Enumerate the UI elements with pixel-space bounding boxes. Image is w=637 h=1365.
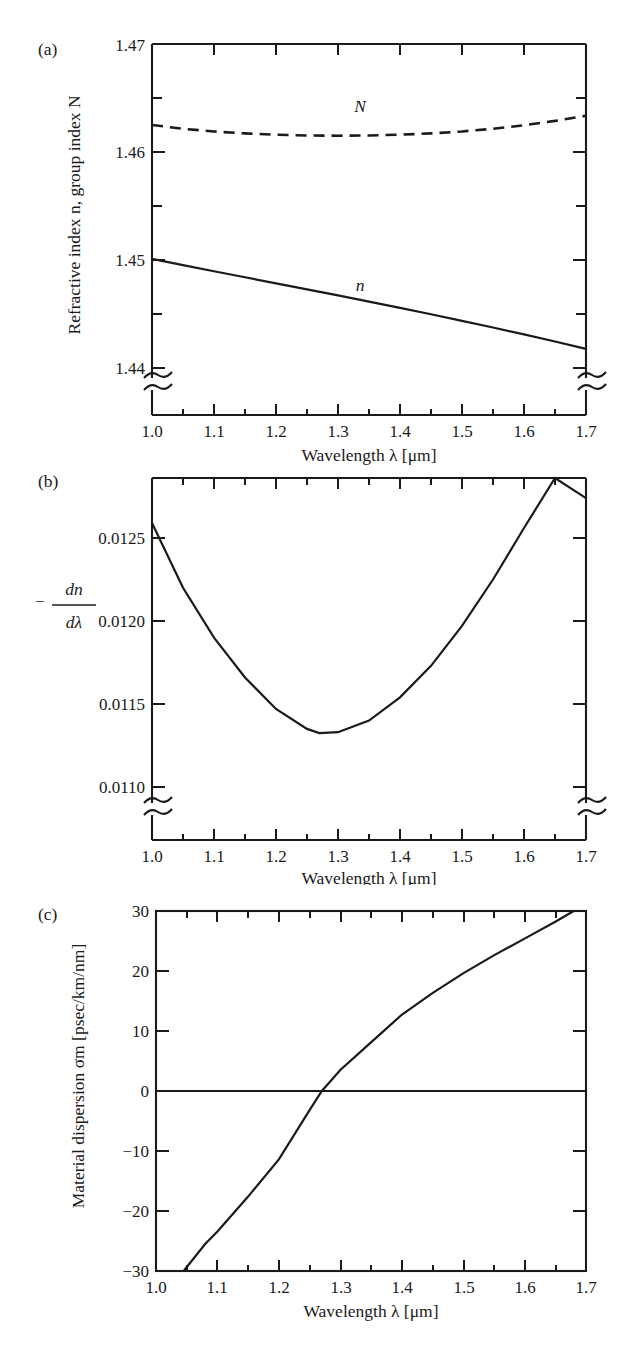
panel-b-y-tick-labels: 0.0110 0.0115 0.0120 0.0125 <box>98 529 145 797</box>
panel-b-xtick-7: 1.7 <box>575 847 597 866</box>
panel-a-axis-break-left <box>144 372 172 415</box>
panel-a-xtick-3: 1.3 <box>327 422 348 441</box>
panel-a-xtick-4: 1.4 <box>389 422 411 441</box>
panel-a-xtick-5: 1.5 <box>451 422 472 441</box>
panel-c-xtick-1: 1.1 <box>206 1278 227 1297</box>
panel-b-ytick-3: 0.0125 <box>98 529 145 548</box>
panel-a-y-tick-labels: 1.44 1.45 1.46 1.47 <box>115 36 145 378</box>
panel-b-xtick-1: 1.1 <box>203 847 224 866</box>
panel-c-ytick-3: 0 <box>141 1082 150 1101</box>
panel-a-letter: (a) <box>38 39 58 59</box>
panel-c: (c) Material dispersion σm [psec/km/nm] <box>0 880 637 1365</box>
panel-a-xtick-7: 1.7 <box>575 422 597 441</box>
panel-a-ytick-1: 1.45 <box>115 251 145 270</box>
panel-c-x-tick-labels: 1.0 1.1 1.2 1.3 1.4 1.5 1.6 1.7 <box>145 1278 597 1297</box>
panel-a-label-N: N <box>353 96 367 116</box>
panel-a-xtick-1: 1.1 <box>203 422 224 441</box>
panel-b-y-ticks <box>152 538 586 787</box>
panel-b-ylabel-sign: − <box>35 591 45 611</box>
panel-a-x-ticks <box>152 44 586 415</box>
panel-b: (b) − dn dλ <box>0 455 637 885</box>
panel-c-xtick-5: 1.5 <box>453 1278 474 1297</box>
panel-b-ylabel-numerator: dn <box>65 579 83 599</box>
panel-b-ylabel-group: − dn dλ <box>35 579 96 632</box>
panel-a-xtick-6: 1.6 <box>513 422 534 441</box>
panel-b-xtick-6: 1.6 <box>513 847 534 866</box>
panel-a-y-ticks <box>152 44 586 368</box>
panel-c-y-tick-labels: −30 −20 −10 0 10 20 30 <box>122 902 149 1281</box>
panel-b-xtick-4: 1.4 <box>389 847 411 866</box>
panel-a-x-tick-labels: 1.0 1.1 1.2 1.3 1.4 1.5 1.6 1.7 <box>141 422 597 441</box>
panel-c-letter: (c) <box>38 904 58 924</box>
panel-c-ytick-2: −10 <box>122 1142 149 1161</box>
panel-b-xtick-5: 1.5 <box>451 847 472 866</box>
panel-b-xtick-0: 1.0 <box>141 847 162 866</box>
panel-b-curve <box>152 478 586 733</box>
panel-a-curve-n <box>152 259 586 349</box>
panel-c-ylabel: Material dispersion σm [psec/km/nm] <box>68 944 88 1209</box>
panel-b-ytick-2: 0.0120 <box>98 612 145 631</box>
panel-c-xlabel: Wavelength λ [μm] <box>303 1301 438 1321</box>
panel-a-ytick-2: 1.46 <box>115 143 145 162</box>
panel-c-ytick-5: 20 <box>132 962 149 981</box>
panel-b-axis-break-left <box>144 797 172 840</box>
panel-b-ytick-1: 0.0115 <box>99 695 145 714</box>
panel-c-xtick-4: 1.4 <box>391 1278 413 1297</box>
panel-c-ytick-6: 30 <box>132 902 149 921</box>
panel-b-letter: (b) <box>38 471 59 491</box>
panel-b-xtick-2: 1.2 <box>265 847 286 866</box>
panel-a-xtick-0: 1.0 <box>141 422 162 441</box>
panel-b-svg: (b) − dn dλ <box>0 455 637 885</box>
panel-c-xtick-6: 1.6 <box>514 1278 535 1297</box>
panel-a-ytick-0: 1.44 <box>115 359 145 378</box>
panel-c-xtick-0: 1.0 <box>145 1278 166 1297</box>
panel-c-xtick-3: 1.3 <box>330 1278 351 1297</box>
panel-a-ytick-3: 1.47 <box>115 36 145 55</box>
panel-a-frame <box>152 44 586 415</box>
panel-a-label-n: n <box>356 275 365 295</box>
panel-c-xtick-2: 1.2 <box>268 1278 289 1297</box>
panel-a-letter-group: (a) <box>38 39 58 59</box>
panel-b-axis-break-right <box>578 797 606 840</box>
panel-a-axis-break-right <box>578 372 606 415</box>
panel-c-ytick-4: 10 <box>132 1022 149 1041</box>
panel-a-svg: (a) Refractive index n, group index N <box>0 0 637 465</box>
panel-b-x-tick-labels: 1.0 1.1 1.2 1.3 1.4 1.5 1.6 1.7 <box>141 847 597 866</box>
figure-container: (a) Refractive index n, group index N <box>0 0 637 1365</box>
panel-a: (a) Refractive index n, group index N <box>0 0 637 465</box>
panel-c-xtick-7: 1.7 <box>575 1278 597 1297</box>
panel-a-xtick-2: 1.2 <box>265 422 286 441</box>
panel-a-ylabel: Refractive index n, group index N <box>64 95 84 334</box>
panel-b-ylabel-denominator: dλ <box>66 612 83 632</box>
panel-c-svg: (c) Material dispersion σm [psec/km/nm] <box>0 880 637 1365</box>
panel-a-curve-N <box>152 116 586 136</box>
panel-a-ylabel-group: Refractive index n, group index N <box>64 95 84 334</box>
panel-c-ytick-1: −20 <box>122 1202 149 1221</box>
panel-b-ytick-0: 0.0110 <box>99 778 145 797</box>
panel-b-xtick-3: 1.3 <box>327 847 348 866</box>
